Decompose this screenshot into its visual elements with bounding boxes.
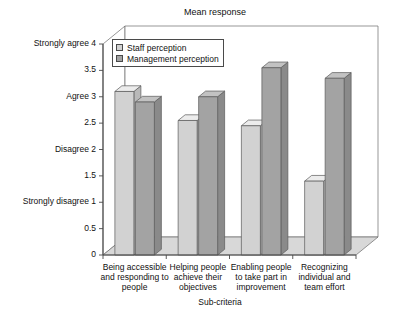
bar-side-management-3 xyxy=(344,73,351,255)
y-axis-tick-label: 2.5 xyxy=(0,118,96,128)
legend-label-staff-perception: Staff perception xyxy=(127,43,186,53)
bar-front-staff-0 xyxy=(115,91,134,255)
bar-front-staff-2 xyxy=(241,126,260,255)
chart-legend: Staff perception Management perception xyxy=(112,39,224,67)
bar-front-staff-1 xyxy=(178,120,197,255)
y-axis-tick-label: 3.5 xyxy=(0,65,96,75)
legend-swatch-dark-icon xyxy=(116,55,123,62)
x-axis-category-line: team effort xyxy=(286,283,363,293)
legend-item-staff-perception: Staff perception xyxy=(116,42,219,53)
y-axis-tick-label: Strongly agree 4 xyxy=(0,39,96,49)
legend-item-management-perception: Management perception xyxy=(116,53,219,64)
x-axis-category-label: Recognizingindividual andteam effort xyxy=(286,263,363,292)
y-axis-tick-label: Disagree 2 xyxy=(0,145,96,155)
y-axis-tick-label: 0.5 xyxy=(0,224,96,234)
y-axis-tick-label: Agree 3 xyxy=(0,92,96,102)
y-axis-tick-label: 0 xyxy=(0,250,96,260)
bar-front-management-1 xyxy=(199,97,218,255)
y-axis-tick-label: 1.5 xyxy=(0,171,96,181)
bar-front-management-2 xyxy=(262,68,281,255)
bar-side-management-2 xyxy=(281,62,288,255)
bar-front-staff-3 xyxy=(305,181,324,255)
legend-swatch-light-icon xyxy=(116,44,123,51)
legend-label-management-perception: Management perception xyxy=(127,54,219,64)
x-axis-title: Sub-criteria xyxy=(180,298,260,308)
chart-container: Mean response 00.5Strongly disagree 11.5… xyxy=(0,0,399,315)
y-axis-tick-label: Strongly disagree 1 xyxy=(0,197,96,207)
bar-side-management-1 xyxy=(218,91,225,255)
bar-front-management-3 xyxy=(325,78,344,255)
bar-side-management-0 xyxy=(154,96,161,255)
bar-front-management-0 xyxy=(135,102,154,255)
